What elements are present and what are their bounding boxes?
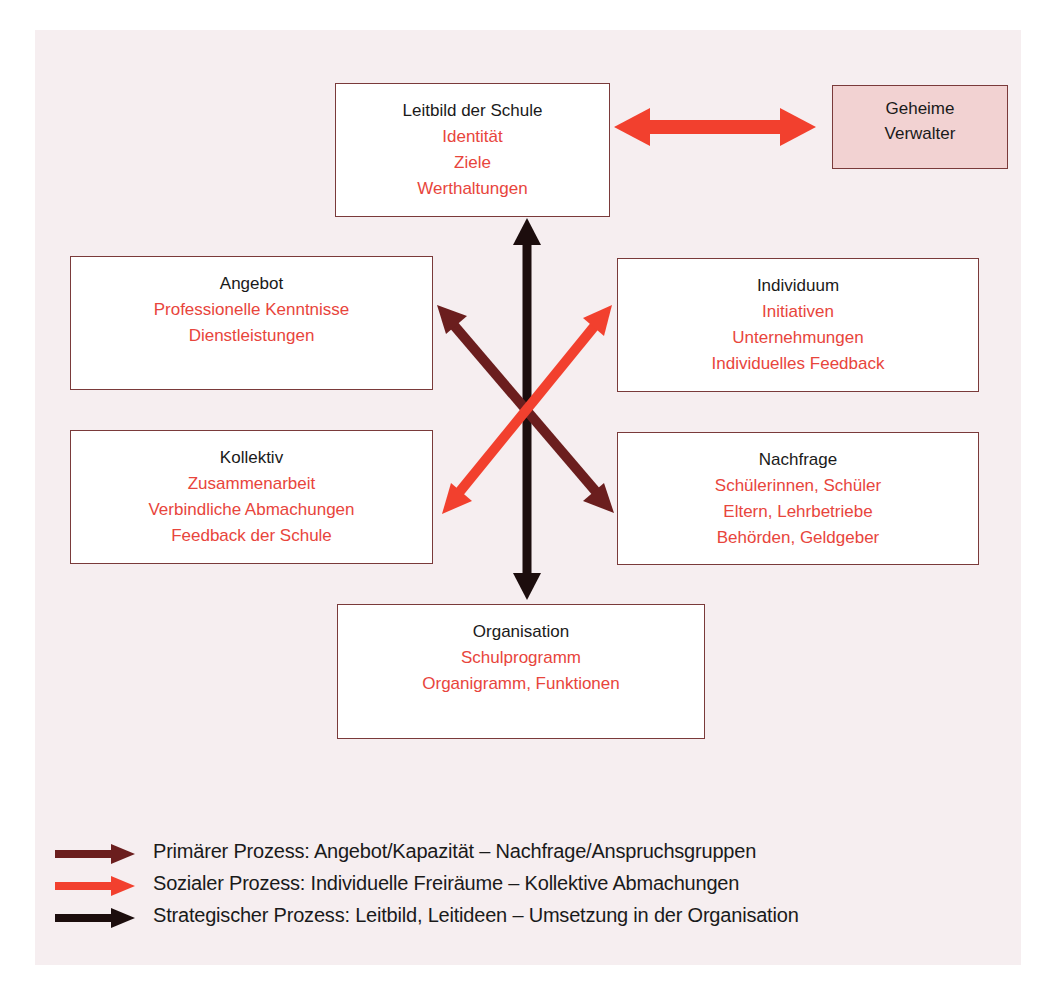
box-item: Zusammenarbeit — [71, 471, 432, 497]
box-leitbild: Leitbild der Schule Identität Ziele Wert… — [335, 83, 610, 217]
box-item: Feedback der Schule — [71, 523, 432, 549]
box-item: Identität — [336, 124, 609, 150]
box-title: Nachfrage — [618, 447, 978, 473]
legend-label: Strategischer Prozess: Leitbild, Leitide… — [153, 904, 799, 927]
box-title: Leitbild der Schule — [336, 98, 609, 124]
box-item: Organigramm, Funktionen — [338, 671, 704, 697]
box-item: Werthaltungen — [336, 176, 609, 202]
box-item: Schulprogramm — [338, 645, 704, 671]
box-item: Dienstleistungen — [71, 323, 432, 349]
box-item: Eltern, Lehrbetriebe — [618, 499, 978, 525]
box-title: Organisation — [338, 619, 704, 645]
box-item: Individuelles Feedback — [618, 351, 978, 377]
legend-label: Sozialer Prozess: Individuelle Freiräume… — [153, 872, 739, 895]
box-item: Behörden, Geldgeber — [618, 525, 978, 551]
box-item: Verbindliche Abmachungen — [71, 497, 432, 523]
box-title: Geheime — [833, 96, 1007, 121]
box-geheime-verwalter: Geheime Verwalter — [832, 85, 1008, 169]
black-arrow-icon — [55, 908, 137, 928]
box-title: Individuum — [618, 273, 978, 299]
box-item: Unternehmungen — [618, 325, 978, 351]
box-angebot: Angebot Professionelle Kenntnisse Dienst… — [70, 256, 433, 390]
box-item: Professionelle Kenntnisse — [71, 297, 432, 323]
box-item: Initiativen — [618, 299, 978, 325]
box-item: Ziele — [336, 150, 609, 176]
box-item: Schülerinnen, Schüler — [618, 473, 978, 499]
red-arrow-icon — [55, 876, 137, 896]
box-title: Kollektiv — [71, 445, 432, 471]
dark-red-arrow-icon — [55, 844, 137, 864]
legend-label: Primärer Prozess: Angebot/Kapazität – Na… — [153, 840, 756, 863]
box-individuum: Individuum Initiativen Unternehmungen In… — [617, 258, 979, 392]
box-title: Verwalter — [833, 121, 1007, 146]
leitbild-geheime-arrow — [614, 108, 816, 146]
box-title: Angebot — [71, 271, 432, 297]
box-kollektiv: Kollektiv Zusammenarbeit Verbindliche Ab… — [70, 430, 433, 564]
box-organisation: Organisation Schulprogramm Organigramm, … — [337, 604, 705, 739]
box-nachfrage: Nachfrage Schülerinnen, Schüler Eltern, … — [617, 432, 979, 565]
